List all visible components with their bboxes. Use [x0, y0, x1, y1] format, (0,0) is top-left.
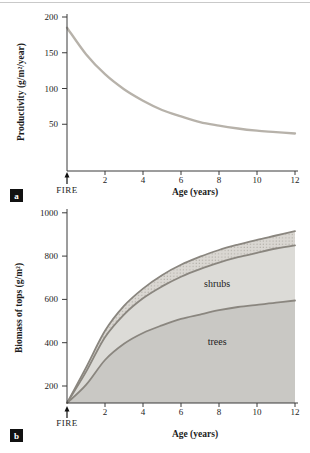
y-tick-label: 800 — [45, 251, 59, 261]
y-tick-label: 50 — [49, 119, 59, 129]
x-tick-label: 12 — [291, 407, 300, 417]
x-tick-label: 10 — [253, 175, 263, 185]
x-tick-label: 8 — [217, 407, 222, 417]
y-tick-label: 100 — [45, 84, 59, 94]
fire-label: FIRE — [56, 418, 78, 428]
y-tick-label: 1000 — [40, 208, 59, 218]
fire-label: FIRE — [56, 185, 78, 195]
fire-arrow-icon — [65, 172, 70, 178]
y-tick-label: 200 — [45, 381, 59, 391]
panel-a: 5010015020024681012Age (years)Productivi… — [16, 12, 300, 198]
trees-area-label: trees — [208, 336, 227, 347]
panel-b: shrubstrees200400600800100024681012Age (… — [14, 208, 300, 440]
y-tick-label: 200 — [45, 12, 59, 22]
y-tick-label: 150 — [45, 48, 59, 58]
shrubs-area-label: shrubs — [204, 278, 230, 289]
x-tick-label: 2 — [103, 175, 108, 185]
x-tick-label: 6 — [179, 175, 184, 185]
x-tick-label: 8 — [217, 175, 222, 185]
x-tick-label: 4 — [141, 175, 146, 185]
x-tick-label: 2 — [103, 407, 108, 417]
y-axis-label: Biomass of tops (g/m²) — [14, 263, 25, 353]
x-tick-label: 6 — [179, 407, 184, 417]
panel-a-marker: a — [10, 189, 23, 202]
x-tick-label: 12 — [291, 175, 300, 185]
panel-b-marker: b — [10, 429, 23, 442]
productivity-curve — [67, 28, 295, 134]
fire-succession-figure: 5010015020024681012Age (years)Productivi… — [0, 0, 310, 453]
x-axis-label: Age (years) — [172, 429, 218, 440]
x-axis-label: Age (years) — [172, 187, 218, 198]
y-tick-label: 600 — [45, 294, 59, 304]
x-tick-label: 10 — [253, 407, 263, 417]
y-tick-label: 400 — [45, 338, 59, 348]
x-tick-label: 4 — [141, 407, 146, 417]
fire-arrow-icon — [65, 406, 70, 412]
y-axis-label: Productivity (g/m²/year) — [16, 43, 27, 141]
chart-canvas: 5010015020024681012Age (years)Productivi… — [0, 0, 310, 453]
